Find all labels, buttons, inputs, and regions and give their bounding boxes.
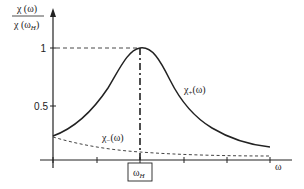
y-tick-label-0.5: 0.5 — [34, 101, 48, 112]
chart-figure: 1 0.5 χ (ω) χ (ωH) χ+(ω) χ−(ω) ωH ω — [0, 0, 304, 189]
legend-chi-minus: χ−(ω) — [101, 132, 124, 145]
y-label-numerator: χ (ω) — [16, 3, 37, 15]
legend-chi-plus: χ+(ω) — [183, 84, 206, 97]
y-tick-label-1: 1 — [40, 43, 46, 54]
y-axis-arrow-icon — [50, 8, 56, 17]
y-label-denominator: χ (ωH) — [13, 19, 39, 32]
series-chi-plus — [53, 48, 270, 147]
x-axis-label: ω — [275, 161, 282, 172]
